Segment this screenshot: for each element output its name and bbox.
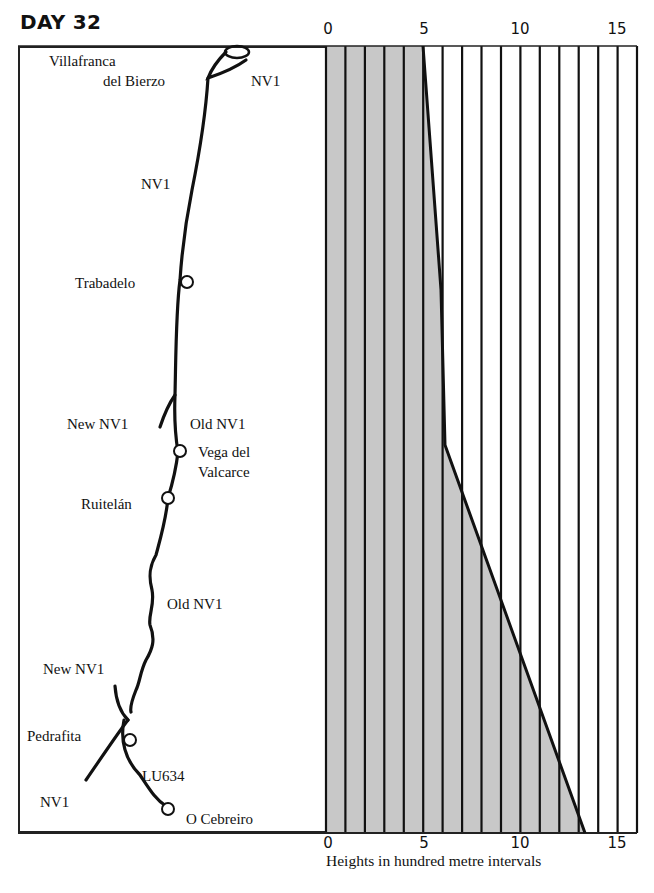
label-trabadelo: Trabadelo <box>75 274 135 292</box>
marker-ruitelan <box>162 492 174 504</box>
tick-top-15: 15 <box>607 20 626 38</box>
label-o-cebreiro: O Cebreiro <box>186 810 253 828</box>
road-label-new-nv1: New NV1 <box>67 415 128 433</box>
label-del-bierzo: del Bierzo <box>103 72 165 90</box>
tick-top-10: 10 <box>510 20 529 38</box>
label-valcarce: Valcarce <box>198 463 250 481</box>
label-ruitelan: Ruitelán <box>81 495 132 513</box>
marker-vega-del-valcarce <box>174 445 186 457</box>
road-label-old-nv1: Old NV1 <box>190 415 245 433</box>
marker-trabadelo <box>181 276 193 288</box>
marker-pedrafita <box>124 734 136 746</box>
route-and-profile-graphics <box>0 0 654 893</box>
tick-bottom-10: 10 <box>510 834 529 852</box>
road-label-lu634: LU634 <box>142 767 185 785</box>
tick-bottom-15: 15 <box>607 834 626 852</box>
road-label-nv1: NV1 <box>40 793 69 811</box>
tick-bottom-5: 5 <box>419 834 429 852</box>
label-villafranca: Villafranca <box>49 52 116 70</box>
tick-bottom-0: 0 <box>323 834 333 852</box>
label-pedrafita: Pedrafita <box>27 727 81 745</box>
road-label-nv1: NV1 <box>141 175 170 193</box>
road-label-old-nv1: Old NV1 <box>167 595 222 613</box>
tick-top-5: 5 <box>419 20 429 38</box>
tick-top-0: 0 <box>323 20 333 38</box>
label-vega-del: Vega del <box>198 443 250 461</box>
x-axis-label: Heights in hundred metre intervals <box>326 852 541 870</box>
road-label-nv1: NV1 <box>251 72 280 90</box>
elevation-profile <box>18 46 637 833</box>
marker-o-cebreiro <box>162 803 174 815</box>
road-label-new-nv1: New NV1 <box>43 660 104 678</box>
